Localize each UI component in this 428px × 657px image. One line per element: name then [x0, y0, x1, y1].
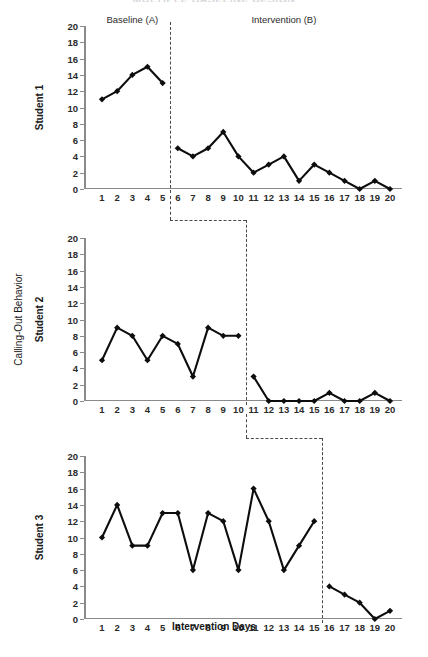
y-tick-label: 6: [73, 565, 78, 576]
y-tick: [80, 303, 84, 304]
data-point-marker: [144, 543, 150, 549]
x-tick-label: 6: [175, 192, 180, 203]
y-tick-label: 4: [73, 151, 78, 162]
y-tick-label: 18: [67, 37, 78, 48]
x-tick-label: 15: [309, 404, 320, 415]
plot-area-student-3: 0246810121416182012345678910111213141516…: [84, 456, 402, 619]
y-tick: [80, 554, 84, 555]
y-tick: [80, 189, 84, 190]
y-tick: [80, 401, 84, 402]
y-tick: [80, 368, 84, 369]
y-tick-label: 12: [67, 516, 78, 527]
y-tick-label: 10: [67, 102, 78, 113]
y-tick-label: 2: [73, 379, 78, 390]
y-tick-label: 16: [67, 53, 78, 64]
y-tick: [80, 26, 84, 27]
data-point-marker: [175, 510, 181, 516]
y-tick: [80, 75, 84, 76]
y-tick-label: 0: [73, 184, 78, 195]
x-tick-label: 5: [160, 404, 165, 415]
x-tick-label: 12: [263, 192, 274, 203]
series-line: [102, 489, 314, 570]
y-tick-label: 16: [67, 265, 78, 276]
chart-y-axis-title: Calling-Out Behavior: [13, 273, 24, 365]
data-point-marker: [99, 357, 105, 363]
y-tick-label: 10: [67, 314, 78, 325]
data-point-marker: [99, 534, 105, 540]
x-tick-label: 10: [233, 404, 244, 415]
x-tick-label: 15: [309, 192, 320, 203]
x-tick-label: 3: [130, 404, 135, 415]
x-tick-label: 11: [249, 404, 259, 415]
y-tick: [80, 238, 84, 239]
y-tick: [80, 91, 84, 92]
x-tick-label: 17: [339, 404, 350, 415]
x-tick-label: 14: [294, 192, 305, 203]
panel-student-3: Student 3 024681012141618201234567891011…: [0, 440, 428, 640]
y-tick-label: 12: [67, 86, 78, 97]
y-tick-label: 18: [67, 249, 78, 260]
x-tick-label: 19: [370, 404, 381, 415]
y-tick: [80, 42, 84, 43]
y-tick: [80, 538, 84, 539]
y-tick-label: 0: [73, 396, 78, 407]
y-tick-label: 2: [73, 167, 78, 178]
x-tick-label: 17: [339, 192, 350, 203]
panel-student-1: Student 1 Baseline (A) Intervention (B) …: [0, 10, 428, 210]
y-tick: [80, 619, 84, 620]
y-tick: [80, 140, 84, 141]
x-tick-label: 8: [205, 404, 210, 415]
plot-area-student-2: 0246810121416182012345678910111213141516…: [84, 238, 402, 401]
y-tick: [80, 603, 84, 604]
x-tick-label: 2: [115, 192, 120, 203]
baseline-phase-label: Baseline (A): [106, 14, 158, 25]
y-tick: [80, 287, 84, 288]
x-tick-label: 5: [160, 192, 165, 203]
y-tick-label: 8: [73, 118, 78, 129]
x-tick-label: 6: [175, 404, 180, 415]
x-tick-label: 1: [99, 192, 104, 203]
y-tick-label: 14: [67, 281, 78, 292]
series-line: [178, 132, 390, 189]
y-tick-label: 6: [73, 347, 78, 358]
y-tick: [80, 586, 84, 587]
y-tick: [80, 472, 84, 473]
y-tick: [80, 570, 84, 571]
y-tick-label: 12: [67, 298, 78, 309]
connector-segment-horizontal: [246, 438, 322, 439]
y-tick-label: 20: [67, 21, 78, 32]
series-line: [102, 328, 238, 377]
x-tick-label: 19: [370, 192, 381, 203]
y-tick: [80, 124, 84, 125]
x-tick-label: 16: [324, 192, 335, 203]
y-tick: [80, 254, 84, 255]
data-point-marker: [250, 486, 256, 492]
x-tick-label: 18: [354, 404, 365, 415]
y-tick-label: 4: [73, 581, 78, 592]
x-tick-label: 7: [190, 404, 195, 415]
series-line: [102, 67, 163, 100]
y-tick: [80, 521, 84, 522]
y-tick-label: 2: [73, 597, 78, 608]
x-tick-label: 13: [279, 192, 290, 203]
data-series-student-2: [84, 238, 402, 401]
y-tick: [80, 336, 84, 337]
x-tick-label: 20: [385, 192, 396, 203]
x-tick-label: 1: [99, 404, 104, 415]
x-tick-label: 2: [115, 404, 120, 415]
x-tick-label: 7: [190, 192, 195, 203]
y-tick: [80, 320, 84, 321]
panel-student-2: Calling-Out Behavior Student 2 024681012…: [0, 222, 428, 422]
data-point-marker: [129, 543, 135, 549]
y-tick-label: 14: [67, 499, 78, 510]
connector-segment-horizontal: [170, 220, 246, 221]
intervention-phase-label: Intervention (B): [251, 14, 316, 25]
data-point-marker: [190, 567, 196, 573]
y-tick: [80, 489, 84, 490]
x-tick-label: 10: [233, 192, 244, 203]
y-tick: [80, 505, 84, 506]
chart-title: MULTIPLE BASELINE DESIGN: [0, 0, 428, 2]
data-series-student-3: [84, 456, 402, 619]
data-point-marker: [266, 518, 272, 524]
y-tick: [80, 352, 84, 353]
